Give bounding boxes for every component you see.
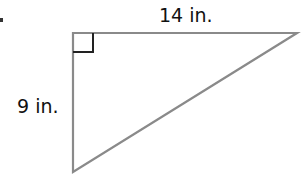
- right-angle-marker: [73, 33, 93, 52]
- left-side-label: 9 in.: [17, 95, 59, 117]
- triangle-diagram: [0, 0, 305, 186]
- top-side-label: 14 in.: [159, 4, 213, 26]
- right-triangle: [73, 33, 297, 172]
- stray-mark: [0, 18, 3, 22]
